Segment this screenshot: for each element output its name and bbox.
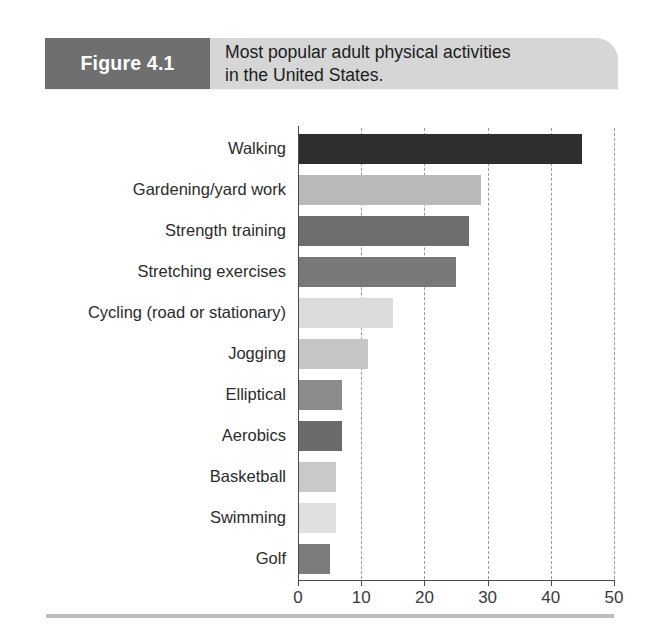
bar xyxy=(298,462,336,492)
bar xyxy=(298,503,336,533)
gridline xyxy=(551,128,552,579)
bar xyxy=(298,298,393,328)
category-label: Aerobics xyxy=(222,427,286,444)
x-tick-mark xyxy=(551,580,552,586)
figure-caption-line-1: Most popular adult physical activities xyxy=(225,41,615,64)
category-label-row: Stretching exercises xyxy=(20,257,293,287)
category-label-row: Strength training xyxy=(20,216,293,246)
x-tick-mark xyxy=(614,580,615,586)
x-tick-mark xyxy=(298,580,299,586)
bar-chart: WalkingGardening/yard workStrength train… xyxy=(0,110,658,610)
category-label-row: Walking xyxy=(20,134,293,164)
bar xyxy=(298,339,368,369)
category-label-row: Elliptical xyxy=(20,380,293,410)
figure-number-label: Figure 4.1 xyxy=(80,52,174,75)
category-label: Cycling (road or stationary) xyxy=(88,304,286,321)
bottom-rule xyxy=(46,614,614,618)
figure-header: Figure 4.1 Most popular adult physical a… xyxy=(45,38,618,89)
category-label: Stretching exercises xyxy=(137,263,286,280)
figure-caption-line-2: in the United States. xyxy=(225,64,615,87)
bar xyxy=(298,544,330,574)
y-axis-line xyxy=(298,126,299,581)
x-axis-line xyxy=(298,580,614,581)
category-label: Elliptical xyxy=(225,386,286,403)
bar xyxy=(298,134,582,164)
category-label-row: Basketball xyxy=(20,462,293,492)
x-tick-mark xyxy=(361,580,362,586)
category-label: Walking xyxy=(228,140,286,157)
category-axis-labels: WalkingGardening/yard workStrength train… xyxy=(20,128,293,579)
plot-wrapper: WalkingGardening/yard workStrength train… xyxy=(0,110,658,610)
figure-page: Figure 4.1 Most popular adult physical a… xyxy=(0,0,658,633)
category-label: Gardening/yard work xyxy=(133,181,286,198)
category-label-row: Swimming xyxy=(20,503,293,533)
plot-area xyxy=(298,128,618,579)
x-tick-label: 10 xyxy=(352,588,371,608)
x-tick-label: 0 xyxy=(293,588,302,608)
category-label-row: Aerobics xyxy=(20,421,293,451)
category-label-row: Jogging xyxy=(20,339,293,369)
category-label: Basketball xyxy=(210,468,286,485)
category-label: Strength training xyxy=(165,222,286,239)
category-label-row: Gardening/yard work xyxy=(20,175,293,205)
category-label-row: Golf xyxy=(20,544,293,574)
gridline xyxy=(488,128,489,579)
category-label: Swimming xyxy=(210,509,286,526)
gridline xyxy=(614,128,615,579)
bar xyxy=(298,380,342,410)
figure-number-box: Figure 4.1 xyxy=(45,38,210,89)
x-tick-mark xyxy=(488,580,489,586)
bar xyxy=(298,175,481,205)
category-label-row: Cycling (road or stationary) xyxy=(20,298,293,328)
bar xyxy=(298,421,342,451)
x-tick-mark xyxy=(424,580,425,586)
x-tick-label: 50 xyxy=(605,588,624,608)
x-tick-label: 40 xyxy=(541,588,560,608)
x-tick-label: 30 xyxy=(478,588,497,608)
category-label: Golf xyxy=(256,550,286,567)
x-tick-label: 20 xyxy=(415,588,434,608)
bar xyxy=(298,216,469,246)
bar xyxy=(298,257,456,287)
category-label: Jogging xyxy=(228,345,286,362)
figure-caption: Most popular adult physical activities i… xyxy=(225,39,615,89)
